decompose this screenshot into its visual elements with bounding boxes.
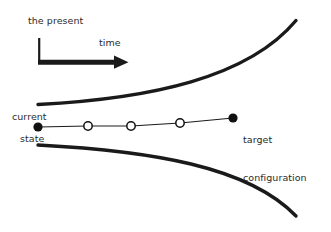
- trajectory-node-3[interactable]: [176, 119, 184, 127]
- label-the-present: the present: [28, 15, 83, 27]
- trajectory-node-1[interactable]: [84, 122, 92, 130]
- label-time: time: [99, 37, 121, 49]
- label-configuration-line: configuration: [243, 172, 307, 185]
- label-state: state: [20, 133, 44, 145]
- figure-canvas: the present time current state target co…: [0, 0, 331, 232]
- label-target-line: target: [243, 134, 307, 147]
- target-configuration-node[interactable]: [228, 113, 237, 122]
- time-arrow-head-icon: [114, 56, 129, 69]
- label-current: current: [12, 111, 47, 123]
- trajectory-node-2[interactable]: [127, 122, 135, 130]
- label-target-configuration: target configuration: [243, 109, 307, 209]
- current-state-node[interactable]: [33, 122, 42, 131]
